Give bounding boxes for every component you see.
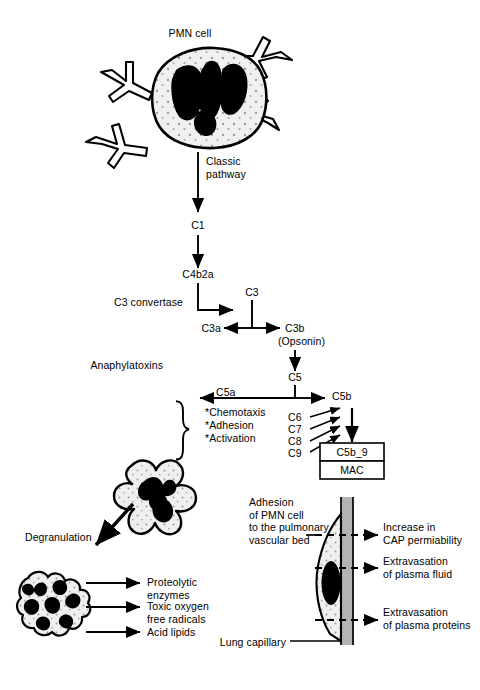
activated-pmn-cell-graphic	[114, 460, 196, 534]
lung-capillary-label: Lung capillary	[220, 636, 286, 649]
terminal-c9-label: C9	[288, 447, 302, 460]
degranulation-arrow	[96, 504, 133, 545]
classic-pathway-label: Classic pathway	[206, 155, 246, 180]
mac-box-top-label: C5b_9	[337, 446, 368, 458]
anaphylatoxins-label: Anaphylatoxins	[90, 359, 163, 372]
c5a-effect-2: *Activation	[205, 432, 256, 445]
c5a-effect-0: *Chemotaxis	[205, 406, 266, 419]
complement-cascade-figure: PMN cell Classic pathway C1 C4b2a C3 con…	[0, 0, 480, 690]
adhesion-label: Adhesion of PMN cell to the pulmonary va…	[249, 496, 329, 546]
c3-label: C3	[245, 286, 259, 299]
c3-convertase-label: C3 convertase	[114, 296, 183, 309]
degranulation-product-1: Toxic oxygen free radicals	[147, 600, 209, 625]
pmn-cell-title: PMN cell	[169, 27, 212, 40]
mac-box-bottom-label: MAC	[340, 464, 363, 476]
degranulation-product-arrows	[86, 583, 140, 632]
c1-label: C1	[191, 219, 205, 232]
terminal-c7-label: C7	[288, 423, 302, 436]
c5-label: C5	[288, 371, 302, 384]
anaphylatoxins-brace	[176, 401, 189, 459]
capillary-effect-0: Increase in CAP permiability	[383, 521, 462, 546]
terminal-c6-label: C6	[288, 411, 302, 424]
c3b-label: C3b	[285, 322, 305, 335]
c5a-effect-1: *Adhesion	[205, 419, 254, 432]
degranulation-product-2: Acid lipids	[147, 626, 195, 639]
opsonin-note: (Opsonin)	[278, 335, 325, 348]
c5b-label: C5b	[332, 390, 352, 403]
degranulation-product-0: Proteolytic enzymes	[147, 576, 197, 601]
diagram-graphics	[0, 0, 480, 690]
capillary-effect-2: Extravasation of plasma proteins	[383, 606, 471, 631]
c5a-label: C5a	[216, 386, 236, 399]
pmn-cell-graphic	[86, 37, 292, 168]
capillary-effect-1: Extravasation of plasma fluid	[383, 555, 452, 580]
degranulation-label: Degranulation	[25, 531, 92, 544]
granule-cluster-graphic	[17, 572, 90, 636]
terminal-c8-label: C8	[288, 435, 302, 448]
c3a-label: C3a	[201, 322, 221, 335]
c4b2a-label: C4b2a	[182, 268, 213, 281]
